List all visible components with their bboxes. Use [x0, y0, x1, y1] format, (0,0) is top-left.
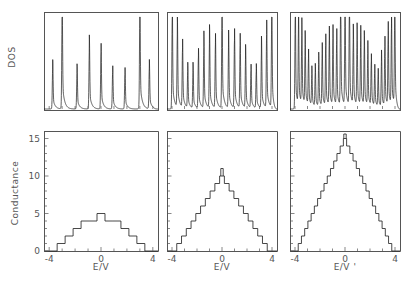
xlabel-panel-3: E/V ' — [290, 262, 400, 272]
conductance-yticklabel: 0 — [34, 246, 40, 256]
figure-container: DOS Conductance -404051015-404-404 E/V E… — [0, 0, 417, 281]
dos-curve — [290, 17, 400, 109]
conductance-axis-label: Conductance — [10, 150, 20, 236]
conductance-yticklabel: 10 — [29, 171, 41, 181]
dos-curve — [167, 17, 277, 109]
conductance-panel-right-frame — [291, 132, 401, 252]
conductance-center-spike — [344, 134, 346, 139]
conductance-yticklabel: 5 — [34, 209, 40, 219]
plot-area: -404051015-404-404 — [0, 0, 417, 281]
xlabel-panel-2: E/V — [167, 262, 277, 272]
xlabel-panel-1: E/V — [44, 262, 158, 272]
conductance-staircase — [167, 176, 277, 251]
conductance-yticklabel: 15 — [29, 134, 40, 144]
conductance-staircase — [44, 214, 158, 252]
conductance-panel-left-frame — [45, 132, 159, 252]
dos-curve — [44, 17, 158, 109]
conductance-staircase — [290, 139, 400, 252]
conductance-center-spike — [221, 169, 223, 177]
conductance-panel-middle-frame — [168, 132, 278, 252]
dos-axis-label: DOS — [7, 37, 17, 77]
